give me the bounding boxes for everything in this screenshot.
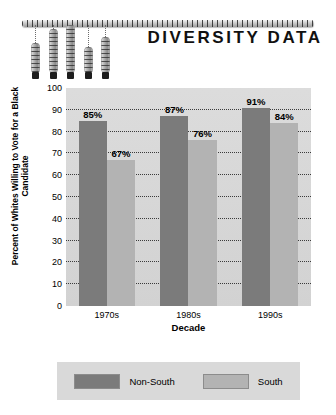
legend-item: South xyxy=(203,374,283,389)
bar: 87% xyxy=(160,116,188,306)
hanger-stick xyxy=(66,25,75,73)
y-axis-tick-label: 80 xyxy=(52,127,62,137)
hanger-stick xyxy=(31,43,40,73)
legend-label: South xyxy=(258,376,283,387)
hanging-bar-icon xyxy=(66,25,75,77)
y-axis-tick-label: 70 xyxy=(52,148,62,158)
y-axis-tick-label: 60 xyxy=(52,170,62,180)
y-axis-tick-label: 30 xyxy=(52,236,62,246)
y-axis-tick-label: 50 xyxy=(52,192,62,202)
hanging-bar-icon xyxy=(31,25,40,59)
bar-chart: Percent of Whites Willing to Vote for a … xyxy=(0,78,336,353)
bar-value-label: 85% xyxy=(83,109,102,120)
page-header: DIVERSITY DATA xyxy=(0,0,336,78)
hanger-stick xyxy=(49,29,58,73)
bar-value-label: 76% xyxy=(193,128,212,139)
hanging-bar-icon xyxy=(84,25,93,55)
plot-area: 0102030405060708090100 85%67%1970s87%76%… xyxy=(66,88,311,306)
hanging-bar-icon xyxy=(101,25,110,65)
y-axis-tick-label: 20 xyxy=(52,257,62,267)
bar-group: 87%76%1980s xyxy=(148,88,230,306)
hanger-string xyxy=(105,25,107,37)
legend-item: Non-South xyxy=(74,374,174,389)
hanger-string xyxy=(35,25,37,43)
y-axis-label: Percent of Whites Willing to Vote for a … xyxy=(10,73,30,279)
bar-value-label: 84% xyxy=(275,111,294,122)
bar: 85% xyxy=(79,121,107,306)
bar-value-label: 87% xyxy=(165,104,184,115)
bar: 76% xyxy=(188,140,216,306)
bar-group: 85%67%1970s xyxy=(66,88,148,306)
x-axis-tick-label: 1980s xyxy=(148,310,230,320)
y-axis-tick-label: 90 xyxy=(52,105,62,115)
y-axis-tick-label: 40 xyxy=(52,214,62,224)
y-axis-tick-label: 100 xyxy=(47,83,62,93)
bar-group: 91%84%1990s xyxy=(229,88,311,306)
bar: 91% xyxy=(242,108,270,306)
bar-value-label: 67% xyxy=(111,148,130,159)
hanging-bar-icon xyxy=(49,25,58,73)
legend-label: Non-South xyxy=(129,376,174,387)
hanger-stick xyxy=(84,47,93,73)
y-axis-tick-label: 0 xyxy=(57,301,62,311)
hanger-stick xyxy=(101,37,110,73)
y-axis-tick-label: 10 xyxy=(52,279,62,289)
chart-legend: Non-SouthSouth xyxy=(57,362,300,400)
bar: 67% xyxy=(107,160,135,306)
legend-swatch xyxy=(203,374,249,389)
x-axis-label: Decade xyxy=(66,322,311,333)
page-title: DIVERSITY DATA xyxy=(140,28,330,48)
legend-swatch xyxy=(74,374,120,389)
x-axis-tick-label: 1990s xyxy=(229,310,311,320)
bar-value-label: 91% xyxy=(247,96,266,107)
x-axis-tick-label: 1970s xyxy=(66,310,148,320)
hanger-string xyxy=(88,25,90,47)
bar: 84% xyxy=(270,123,298,306)
